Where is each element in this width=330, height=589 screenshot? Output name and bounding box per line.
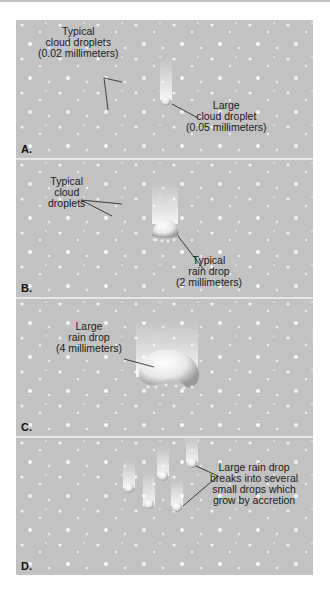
rain-drop-growth-figure: Typical cloud droplets (0.02 millimeters… (16, 20, 313, 575)
panel-a: Typical cloud droplets (0.02 millimeters… (16, 20, 313, 158)
panel-b: Typical cloud droplets Typical rain drop… (16, 160, 313, 297)
falling-drop-trail (152, 182, 178, 224)
large-cloud-droplet-icon (162, 97, 171, 106)
label-large-rain-drop: Large rain drop (4 millimeters) (56, 321, 122, 354)
panel-d-drawing (16, 438, 313, 575)
label-large-cloud-droplet: Large cloud droplet (0.05 millimeters) (186, 100, 267, 133)
panel-d: Large rain drop breaks into several smal… (16, 438, 313, 575)
panel-letter-b: B. (21, 282, 32, 294)
panel-letter-a: A. (21, 143, 32, 155)
panel-letter-d: D. (21, 560, 32, 572)
label-typical-rain-drop: Typical rain drop (2 millimeters) (176, 255, 242, 288)
label-rain-drop-breakup: Large rain drop breaks into several smal… (210, 462, 298, 506)
panel-letter-c: C. (21, 421, 32, 433)
label-typical-cloud-droplets: Typical cloud droplets (0.02 millimeters… (38, 26, 119, 59)
label-typical-cloud-droplets: Typical cloud droplets (48, 176, 85, 209)
panel-c: Large rain drop (4 millimeters) C. (16, 299, 313, 436)
falling-drop-trail (160, 58, 172, 100)
top-rule (0, 0, 330, 2)
panel-c-drawing (16, 299, 313, 436)
